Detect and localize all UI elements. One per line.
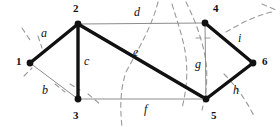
node-label-5: 5: [211, 110, 217, 121]
edge-e[interactable]: [78, 24, 206, 99]
edge-h[interactable]: [206, 63, 253, 99]
edge-label-f: f: [144, 103, 147, 115]
cut-curve-cut-right-5: [262, 4, 276, 10]
cut-curve-cut-center: [121, 2, 158, 127]
node-3[interactable]: [75, 96, 82, 103]
node-label-3: 3: [73, 110, 79, 121]
node-4[interactable]: [202, 20, 209, 27]
edge-label-i: i: [238, 32, 241, 44]
cut-curve-cut-right-3: [226, 12, 272, 32]
edge-b[interactable]: [30, 63, 78, 99]
node-label-1: 1: [16, 56, 22, 67]
edge-label-d: d: [134, 6, 140, 18]
graph-diagram-canvas: abcdefghi123456: [0, 0, 280, 127]
node-label-6: 6: [262, 56, 268, 67]
node-label-2: 2: [73, 3, 79, 14]
edge-g[interactable]: [205, 23, 206, 99]
node-6[interactable]: [250, 60, 257, 67]
cut-curve-cut-mid-2: [172, 4, 187, 108]
cut-curve-cut-left-1: [22, 28, 30, 40]
edge-i[interactable]: [205, 23, 253, 63]
edge-label-c: c: [84, 55, 89, 67]
edge-d[interactable]: [78, 23, 205, 24]
edge-label-b: b: [42, 84, 48, 96]
edge-a[interactable]: [30, 24, 78, 63]
edge-label-e: e: [133, 46, 138, 58]
cut-curve-cut-left-3: [24, 68, 32, 76]
node-5[interactable]: [203, 96, 210, 103]
graph-svg: [0, 0, 280, 127]
node-1[interactable]: [27, 60, 34, 67]
edge-layer: [30, 23, 253, 99]
edge-label-a: a: [41, 27, 47, 39]
edge-label-h: h: [233, 84, 239, 96]
edge-label-g: g: [195, 58, 201, 70]
node-label-4: 4: [213, 3, 219, 14]
node-2[interactable]: [75, 21, 82, 28]
